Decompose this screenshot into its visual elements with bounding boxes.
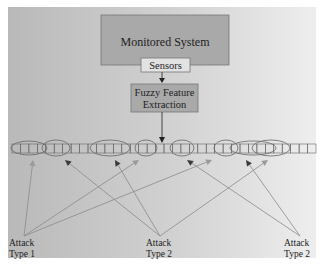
attack-label-line1: Attack — [146, 238, 172, 248]
monitored-system-node: Monitored System — [101, 15, 229, 65]
feature-extraction-label-line2: Extraction — [143, 99, 187, 110]
monitored-system-label: Monitored System — [121, 35, 211, 49]
attack-label-type2-right: Attack Type 2 — [284, 238, 310, 259]
attack-label-line1: Attack — [9, 238, 35, 248]
attack-label-line2: Type 1 — [9, 249, 35, 259]
sensors-label: Sensors — [149, 60, 182, 71]
attack-label-line2: Type 2 — [146, 249, 172, 259]
attack-label-line1: Attack — [284, 238, 310, 248]
feature-extraction-label-line1: Fuzzy Feature — [135, 87, 195, 98]
attack-label-line2: Type 2 — [284, 249, 310, 259]
attack-label-type1: Attack Type 1 — [9, 238, 35, 259]
feature-extraction-node: Fuzzy Feature Extraction — [131, 84, 198, 112]
sensors-node: Sensors — [141, 58, 190, 72]
attack-label-type2-middle: Attack Type 2 — [146, 238, 172, 259]
attack-detection-diagram: Monitored System Sensors Fuzzy Feature E… — [0, 0, 324, 271]
